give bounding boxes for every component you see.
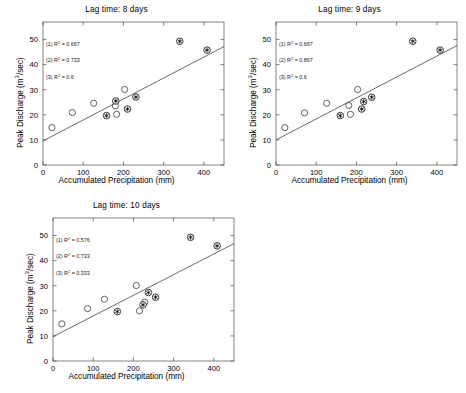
open-circle-marker xyxy=(49,125,55,131)
asterisk-in-circle-marker xyxy=(113,98,120,105)
y-tick-label: 0 xyxy=(267,161,271,170)
y-tick-label: 40 xyxy=(30,60,38,69)
chart-panel: Lag time: 9 days 01002003004000102030405… xyxy=(233,0,466,196)
figure-container: Lag time: 8 days 01002003004000102030405… xyxy=(0,0,466,393)
svg-text:(2) R2 = 0.733: (2) R2 = 0.733 xyxy=(56,252,90,259)
x-axis-label: Accumulated Precipitation (mm) xyxy=(233,176,466,185)
asterisk-in-circle-marker xyxy=(358,106,365,113)
asterisk-in-circle-marker xyxy=(204,47,211,54)
y-tick-label: 30 xyxy=(263,86,271,95)
y-tick-label: 50 xyxy=(263,35,271,44)
r-squared-annotation: (3) R2 = 0.6 xyxy=(279,73,307,80)
svg-text:(2) R2 = 0.867: (2) R2 = 0.867 xyxy=(279,56,313,63)
asterisk-in-circle-marker xyxy=(145,289,152,296)
open-circle-marker xyxy=(301,110,307,116)
open-circle-marker xyxy=(347,111,353,117)
y-tick-label: 10 xyxy=(40,332,48,341)
r-squared-annotation: (2) R2 = 0.733 xyxy=(56,252,90,259)
open-circle-marker xyxy=(69,109,75,115)
svg-text:(3) R2 = 0.333: (3) R2 = 0.333 xyxy=(56,269,90,276)
y-tick-label: 20 xyxy=(40,307,48,316)
scatter-plot-svg: 010020030040001020304050(1) R2 = 0.667(2… xyxy=(0,0,233,196)
open-circle-marker xyxy=(355,86,361,92)
svg-text:(1) R2 = 0.576: (1) R2 = 0.576 xyxy=(56,236,90,243)
asterisk-in-circle-marker xyxy=(360,98,367,105)
y-tick-label: 50 xyxy=(40,231,48,240)
y-tick-label: 0 xyxy=(34,161,38,170)
asterisk-in-circle-marker xyxy=(176,38,183,45)
open-circle-marker xyxy=(282,125,288,131)
r-squared-annotation: (1) R2 = 0.576 xyxy=(56,236,90,243)
open-circle-marker xyxy=(136,308,142,314)
asterisk-in-circle-marker xyxy=(152,294,159,301)
asterisk-in-circle-marker xyxy=(437,47,444,54)
scatter-plot-svg: 010020030040001020304050(1) R2 = 0.667(2… xyxy=(233,0,466,196)
x-axis-label: Accumulated Precipitation (mm) xyxy=(0,176,233,185)
y-tick-label: 20 xyxy=(30,111,38,120)
open-circle-marker xyxy=(346,102,352,108)
asterisk-in-circle-marker xyxy=(140,302,147,309)
asterisk-in-circle-marker xyxy=(214,243,221,250)
asterisk-in-circle-marker xyxy=(133,94,140,101)
x-axis-label: Accumulated Precipitation (mm) xyxy=(10,372,243,381)
asterisk-in-circle-marker xyxy=(103,112,110,119)
y-tick-label: 40 xyxy=(40,256,48,265)
open-circle-marker xyxy=(101,296,107,302)
open-circle-marker xyxy=(133,282,139,288)
svg-text:(1) R2 = 0.667: (1) R2 = 0.667 xyxy=(46,40,80,47)
open-circle-marker xyxy=(91,100,97,106)
asterisk-in-circle-marker xyxy=(368,94,375,101)
y-axis-label: Peak Discharge (m3/sec) xyxy=(247,57,258,148)
y-tick-label: 50 xyxy=(30,35,38,44)
asterisk-in-circle-marker xyxy=(124,106,131,113)
y-tick-label: 30 xyxy=(30,86,38,95)
r-squared-annotation: (3) R2 = 0.333 xyxy=(56,269,90,276)
r-squared-annotation: (1) R2 = 0.667 xyxy=(279,40,313,47)
svg-text:(3) R2 = 0.6: (3) R2 = 0.6 xyxy=(46,73,74,80)
svg-text:(2) R2 = 0.733: (2) R2 = 0.733 xyxy=(46,56,80,63)
asterisk-in-circle-marker xyxy=(187,234,194,241)
y-axis-label: Peak Discharge (m3/sec) xyxy=(24,253,35,344)
open-circle-marker xyxy=(324,100,330,106)
open-circle-marker xyxy=(122,86,128,92)
y-axis-label: Peak Discharge (m3/sec) xyxy=(14,57,25,148)
y-tick-label: 0 xyxy=(44,357,48,366)
open-circle-marker xyxy=(114,111,120,117)
svg-text:(3) R2 = 0.6: (3) R2 = 0.6 xyxy=(279,73,307,80)
scatter-plot-svg: 010020030040001020304050(1) R2 = 0.576(2… xyxy=(10,196,243,392)
y-tick-label: 30 xyxy=(40,282,48,291)
r-squared-annotation: (2) R2 = 0.867 xyxy=(279,56,313,63)
y-tick-label: 20 xyxy=(263,111,271,120)
svg-text:(1) R2 = 0.667: (1) R2 = 0.667 xyxy=(279,40,313,47)
asterisk-in-circle-marker xyxy=(114,308,121,315)
open-circle-marker xyxy=(59,321,65,327)
y-tick-label: 40 xyxy=(263,60,271,69)
asterisk-in-circle-marker xyxy=(409,38,416,45)
open-circle-marker xyxy=(84,305,90,311)
r-squared-annotation: (1) R2 = 0.667 xyxy=(46,40,80,47)
y-tick-label: 10 xyxy=(263,136,271,145)
asterisk-in-circle-marker xyxy=(337,112,344,119)
r-squared-annotation: (2) R2 = 0.733 xyxy=(46,56,80,63)
y-tick-label: 10 xyxy=(30,136,38,145)
chart-panel: Lag time: 8 days 01002003004000102030405… xyxy=(0,0,233,196)
chart-panel: Lag time: 10 days 0100200300400010203040… xyxy=(10,196,243,392)
r-squared-annotation: (3) R2 = 0.6 xyxy=(46,73,74,80)
